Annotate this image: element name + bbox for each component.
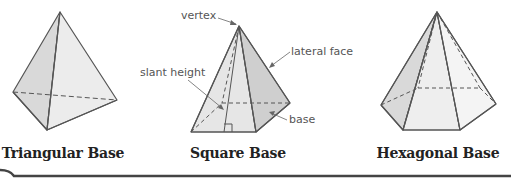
pyramid-figure: vertex lateral face slant height base Tr… (0, 0, 511, 182)
label-lateral-face: lateral face (291, 45, 353, 58)
label-vertex: vertex (181, 9, 216, 22)
bottom-rule (0, 170, 511, 176)
label-base: base (289, 113, 315, 126)
triangular-pyramid (13, 12, 117, 130)
hexagonal-pyramid (381, 12, 496, 130)
label-slant-height: slant height (140, 66, 205, 79)
caption-triangular-base: Triangular Base (2, 145, 125, 161)
caption-hexagonal-base: Hexagonal Base (376, 145, 499, 161)
caption-square-base: Square Base (190, 145, 286, 161)
